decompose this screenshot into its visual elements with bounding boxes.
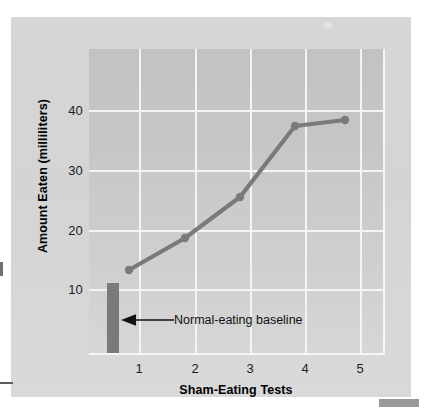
page-edge-tick-artifact (0, 262, 3, 276)
x-axis-title: Sham-Eating Tests (89, 383, 383, 397)
gridline-x-4 (305, 49, 307, 353)
y-tick-label-20: 20 (49, 223, 83, 238)
y-tick-label-10: 10 (49, 282, 83, 297)
y-tick-label-30: 30 (49, 163, 83, 178)
gridline-y-30 (89, 170, 383, 172)
y-tick-label-40: 40 (49, 103, 83, 118)
scan-smudge-artifact (323, 22, 332, 29)
page-corner-mark-artifact (379, 399, 419, 407)
gridline-x-2 (195, 49, 197, 353)
gridline-x-5 (360, 49, 362, 353)
x-axis-ticks: 1 2 3 4 5 (89, 361, 385, 379)
baseline-annotation-label: Normal-eating baseline (174, 313, 303, 327)
x-tick-label-4: 4 (293, 361, 317, 376)
x-axis-line (89, 353, 385, 355)
gridline-x-3 (250, 49, 252, 353)
figure-panel: 40 30 20 10 1 2 3 4 5 Amount Eaten (mill… (11, 17, 411, 397)
normal-eating-baseline-bar (107, 283, 119, 353)
gridline-y-40 (89, 110, 383, 112)
x-tick-label-5: 5 (348, 361, 372, 376)
x-tick-label-3: 3 (238, 361, 262, 376)
gridline-x-1 (139, 49, 141, 353)
page-edge-rule-artifact (0, 382, 13, 384)
plot-right-border (383, 49, 385, 355)
gridline-y-20 (89, 230, 383, 232)
x-tick-label-1: 1 (127, 361, 151, 376)
left-arrow-icon (119, 312, 175, 328)
gridline-y-10 (89, 289, 383, 291)
x-tick-label-2: 2 (183, 361, 207, 376)
y-axis-title: Amount Eaten (milliliters) (36, 81, 50, 271)
plot-area (89, 49, 383, 353)
